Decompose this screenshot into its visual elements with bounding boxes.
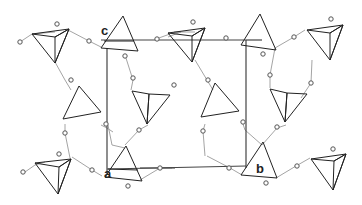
atom <box>87 39 91 43</box>
axis-label-b: b <box>256 161 264 176</box>
axis-label-c: c <box>101 23 108 38</box>
tetrahedron-dark <box>35 159 71 194</box>
atom <box>261 52 265 56</box>
atom <box>227 166 231 170</box>
axis-label-a: a <box>104 166 112 181</box>
atom <box>201 129 205 133</box>
atom <box>57 152 61 156</box>
atom <box>90 168 94 172</box>
tetrahedron-dark-hatched <box>270 89 307 122</box>
unit-cell-outline <box>101 40 262 175</box>
atom <box>55 22 59 26</box>
atom <box>275 125 279 129</box>
bond-network <box>20 30 312 180</box>
atom <box>329 17 333 21</box>
atom <box>21 170 25 174</box>
atom <box>123 54 127 58</box>
atom <box>104 122 108 126</box>
tetrahedron-dark <box>32 29 69 63</box>
tetrahedron-dark-hatched <box>132 91 170 124</box>
atom <box>18 40 22 44</box>
atom <box>158 166 162 170</box>
atom <box>309 81 313 85</box>
tetrahedron-dark <box>311 154 346 190</box>
atom <box>63 131 67 135</box>
atom <box>292 35 296 39</box>
atom <box>172 83 176 87</box>
atom <box>155 37 159 41</box>
atom <box>191 20 195 24</box>
atom <box>131 76 135 80</box>
tetrahedron-hatched <box>201 83 239 117</box>
atom <box>69 78 73 82</box>
atom <box>206 78 210 82</box>
crystal-structure-diagram: c a b <box>0 0 362 205</box>
tetrahedron-dark <box>307 25 343 60</box>
atom <box>137 128 141 132</box>
tetrahedron-hatched <box>63 86 101 119</box>
atom <box>264 181 268 185</box>
atom <box>268 73 272 77</box>
atom <box>224 36 228 40</box>
atom <box>241 120 245 124</box>
atom <box>331 147 335 151</box>
atom <box>295 164 299 168</box>
atom <box>126 184 130 188</box>
